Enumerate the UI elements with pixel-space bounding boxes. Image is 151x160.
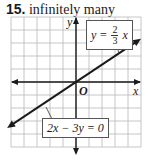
eq1-numerator: 2 xyxy=(111,25,118,36)
y-axis-label: y xyxy=(66,15,73,29)
y-axis-arrow-down xyxy=(73,148,79,155)
eq1-var: x xyxy=(122,29,127,41)
x-axis-label: x xyxy=(132,84,139,98)
eq2-text: 2x − 3y = 0 xyxy=(47,121,104,135)
equation-label-2: 2x − 3y = 0 xyxy=(42,118,109,138)
equation-label-1: y = 2 3 x xyxy=(86,20,133,50)
y-axis-arrow-up xyxy=(73,17,79,24)
eq1-denominator: 3 xyxy=(112,36,117,46)
eq1-lhs: y = xyxy=(91,29,107,41)
x-axis-arrow-left xyxy=(11,79,18,85)
origin-label: O xyxy=(79,84,88,98)
lines xyxy=(7,39,141,128)
line-y-equals-two-thirds-x xyxy=(13,43,135,124)
